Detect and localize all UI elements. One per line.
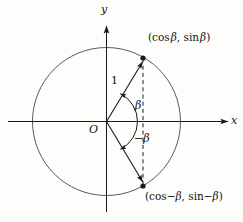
point-lower-sin-arg: −β [204, 190, 219, 202]
point-upper-comma: , [177, 31, 184, 43]
point-lower-label: (cos−β, sin−β) [145, 191, 223, 202]
point-lower-close-paren: ) [219, 190, 223, 202]
point-lower-marker [140, 183, 145, 188]
point-upper-label: (cos β, sin β) [148, 32, 210, 43]
point-upper-cos-fn: cos [152, 31, 170, 43]
origin-label: O [89, 124, 98, 135]
point-lower-cos-arg: −β [167, 190, 182, 202]
angle-beta-label: β [135, 100, 141, 111]
point-lower-cos-fn: cos [149, 190, 167, 202]
point-upper-marker [140, 55, 145, 60]
radius-upper-segment [107, 62, 143, 122]
angle-negative-beta-label: −β [134, 133, 150, 144]
y-axis-label: y [101, 4, 107, 15]
unit-circle-figure: y x O 1 β −β (cos β, sin β) (cos−β, sin−… [0, 0, 243, 222]
radius-length-label: 1 [111, 75, 118, 86]
radius-lower-segment [107, 122, 143, 182]
x-axis-label: x [231, 115, 237, 126]
point-lower-sin-fn: sin [188, 190, 204, 202]
point-upper-sin-fn: sin [184, 31, 200, 43]
point-upper-close-paren: ) [206, 31, 210, 43]
